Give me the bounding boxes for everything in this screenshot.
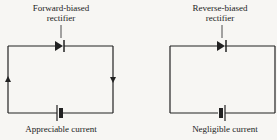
right-battery-icon [219,108,223,118]
left-diode-icon [55,41,63,51]
circuit-diagrams [0,0,277,140]
up-arrow-icon [5,76,11,82]
right-circuit [170,25,275,113]
left-circuit [8,25,113,113]
down-arrow-icon [110,77,116,83]
right-diode-icon [217,41,225,51]
